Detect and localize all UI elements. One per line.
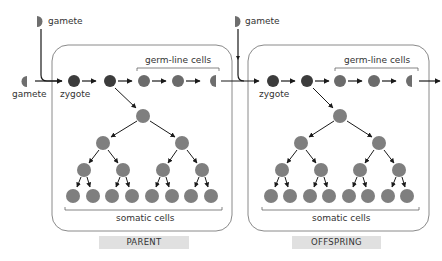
offspring-somatic-cells [264, 109, 414, 203]
offspring-somatic-tree [275, 88, 405, 187]
germline-parent-cell-3 [172, 75, 184, 87]
offspring-label-bar: OFFSPRING [292, 236, 381, 249]
gamete-out-offspring-icon [406, 75, 412, 87]
germline-bracket-parent [137, 68, 219, 71]
somatic-bracket-offspring [262, 207, 419, 210]
zygote-parent-label: zygote [60, 89, 90, 100]
germline-bracket-offspring [335, 68, 418, 71]
zygote-parent-cell [68, 75, 80, 87]
germline-offspring-cell-2 [334, 75, 346, 87]
gamete-out-parent-icon [210, 75, 216, 87]
gamete-top-left-icon [37, 16, 43, 27]
parent-label-bar: PARENT [99, 236, 189, 249]
parent-panel [52, 45, 232, 231]
gamete-top-right-icon [235, 16, 241, 27]
germline-parent-cell-1 [104, 75, 116, 87]
germline-offspring-cell-1 [301, 75, 313, 87]
germline-parent-cell-2 [138, 75, 150, 87]
parent-somatic-tree [77, 88, 208, 187]
gamete-in-arrow-offspring [238, 29, 244, 81]
arrowhead [236, 56, 240, 60]
gamete-top-left-label: gamete [48, 16, 83, 27]
offspring-panel [248, 45, 429, 231]
gamete-left-label: gamete [12, 89, 47, 100]
somatic-offspring-label: somatic cells [312, 213, 371, 224]
somatic-parent-label: somatic cells [116, 213, 175, 224]
zygote-offspring-label: zygote [259, 89, 289, 100]
gamete-left-icon [22, 76, 28, 87]
germline-offspring-label: germ-line cells [344, 55, 410, 66]
zygote-offspring-cell [267, 75, 279, 87]
parent-somatic-cells [66, 109, 218, 203]
gamete-top-right-label: gamete [245, 16, 280, 27]
germline-diagram [0, 0, 442, 261]
germline-parent-label: germ-line cells [145, 55, 211, 66]
somatic-bracket-parent [65, 207, 222, 210]
germline-offspring-cell-3 [368, 75, 380, 87]
